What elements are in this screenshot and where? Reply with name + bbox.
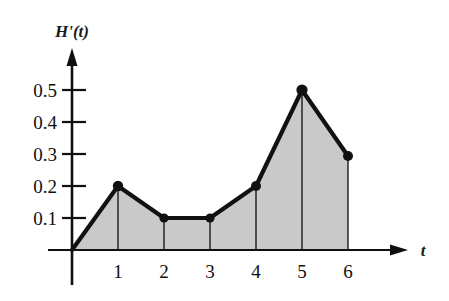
data-point-t6 bbox=[343, 151, 353, 161]
y-tick-label-0.5: 0.5 bbox=[33, 80, 57, 101]
x-tick-label-6: 6 bbox=[343, 261, 353, 282]
x-tick-label-2: 2 bbox=[159, 261, 169, 282]
data-point-t3 bbox=[205, 213, 214, 222]
data-point-t4 bbox=[251, 181, 261, 191]
x-axis-label: t bbox=[421, 241, 427, 260]
chart-figure: 0.5 0.4 0.3 0.2 0.1 1 2 3 4 5 6 H'(t) t bbox=[0, 0, 449, 301]
data-point-t2 bbox=[159, 213, 168, 222]
x-tick-label-5: 5 bbox=[297, 261, 307, 282]
x-tick-label-1: 1 bbox=[113, 261, 123, 282]
x-tick-label-3: 3 bbox=[205, 261, 215, 282]
y-axis-label: H'(t) bbox=[54, 22, 89, 41]
x-tick-label-4: 4 bbox=[251, 261, 261, 282]
y-tick-label-0.3: 0.3 bbox=[33, 144, 57, 165]
chart-plot-area: 0.5 0.4 0.3 0.2 0.1 1 2 3 4 5 6 H'(t) t bbox=[0, 0, 449, 301]
y-tick-label-0.4: 0.4 bbox=[33, 112, 57, 133]
x-axis-arrowhead bbox=[390, 245, 408, 256]
y-axis-arrowhead bbox=[67, 48, 78, 66]
y-tick-label-0.1: 0.1 bbox=[33, 208, 57, 229]
data-point-t5 bbox=[296, 84, 307, 95]
y-tick-label-0.2: 0.2 bbox=[33, 176, 57, 197]
data-point-t1 bbox=[113, 181, 123, 191]
y-tick-group bbox=[62, 90, 86, 218]
